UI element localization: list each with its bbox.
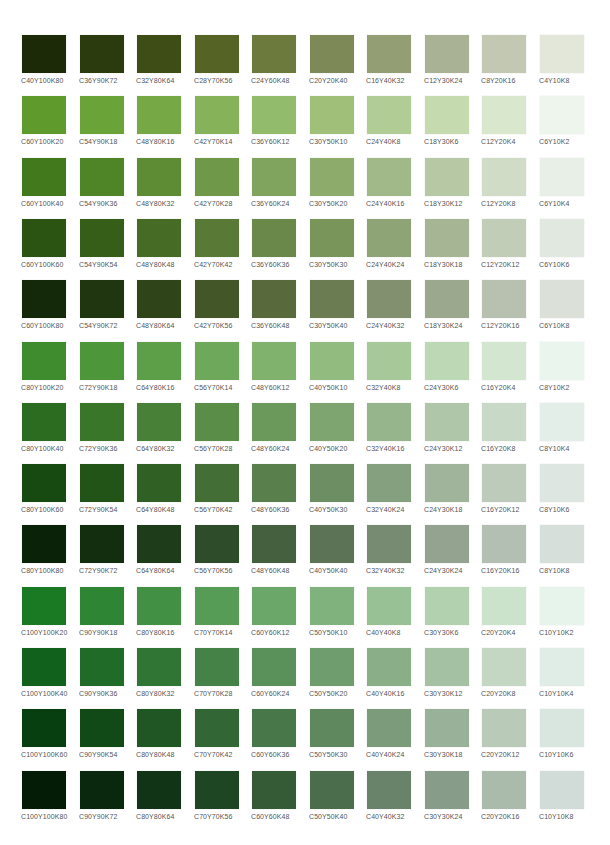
- swatch-label: C54Y90K18: [79, 137, 118, 146]
- swatch-label: C60Y100K40: [21, 199, 63, 208]
- swatch-label: C72Y90K18: [79, 383, 118, 392]
- color-swatch: [252, 525, 296, 563]
- color-swatch: [80, 771, 124, 809]
- color-swatch: [482, 280, 526, 318]
- color-swatch: [310, 464, 354, 502]
- color-swatch: [22, 280, 66, 318]
- swatch-cell: C40Y40K8: [367, 587, 424, 645]
- swatch-cell: C30Y30K18: [425, 709, 482, 767]
- swatch-cell: C30Y30K12: [425, 648, 482, 706]
- swatch-cell: C8Y20K16: [482, 35, 539, 93]
- swatch-cell: C6Y10K2: [540, 96, 597, 154]
- color-swatch: [22, 771, 66, 809]
- swatch-cell: C48Y60K12: [252, 342, 309, 400]
- color-swatch: [367, 648, 411, 686]
- swatch-label: C40Y50K30: [309, 505, 348, 514]
- swatch-row: C60Y100K20C54Y90K18C48Y80K16C42Y70K14C36…: [22, 96, 602, 157]
- color-swatch: [310, 587, 354, 625]
- color-swatch: [195, 648, 239, 686]
- color-swatch: [540, 525, 584, 563]
- swatch-cell: C10Y10K6: [540, 709, 597, 767]
- color-swatch: [252, 648, 296, 686]
- swatch-cell: C36Y90K72: [80, 35, 137, 93]
- swatch-cell: C40Y100K80: [22, 35, 79, 93]
- color-swatch: [80, 96, 124, 134]
- swatch-cell: C72Y90K36: [80, 403, 137, 461]
- swatch-cell: C60Y100K80: [22, 280, 79, 338]
- swatch-label: C10Y10K6: [539, 750, 574, 759]
- swatch-label: C72Y90K72: [79, 566, 118, 575]
- swatch-label: C20Y20K40: [309, 76, 348, 85]
- swatch-cell: C16Y40K32: [367, 35, 424, 93]
- swatch-label: C24Y30K12: [424, 444, 463, 453]
- swatch-label: C6Y10K4: [539, 199, 570, 208]
- color-swatch: [137, 709, 181, 747]
- color-swatch: [252, 96, 296, 134]
- swatch-cell: C56Y70K42: [195, 464, 252, 522]
- color-swatch: [540, 96, 584, 134]
- color-swatch: [195, 158, 239, 196]
- color-swatch: [310, 96, 354, 134]
- swatch-label: C32Y40K16: [366, 444, 405, 453]
- swatch-row: C80Y100K80C72Y90K72C64Y80K64C56Y70K56C48…: [22, 525, 602, 586]
- swatch-label: C10Y10K8: [539, 812, 574, 821]
- color-swatch: [482, 158, 526, 196]
- swatch-cell: C60Y60K36: [252, 709, 309, 767]
- swatch-cell: C16Y20K4: [482, 342, 539, 400]
- swatch-label: C24Y30K18: [424, 505, 463, 514]
- swatch-cell: C80Y80K48: [137, 709, 194, 767]
- swatch-cell: C24Y40K24: [367, 219, 424, 277]
- swatch-label: C40Y40K16: [366, 689, 405, 698]
- color-swatch: [425, 219, 469, 257]
- swatch-cell: C8Y10K2: [540, 342, 597, 400]
- swatch-cell: C32Y40K32: [367, 525, 424, 583]
- swatch-label: C80Y80K64: [136, 812, 175, 821]
- swatch-label: C18Y30K6: [424, 137, 459, 146]
- color-swatch: [425, 648, 469, 686]
- swatch-cell: C18Y30K24: [425, 280, 482, 338]
- swatch-cell: C100Y100K60: [22, 709, 79, 767]
- swatch-label: C8Y10K4: [539, 444, 570, 453]
- swatch-label: C40Y40K32: [366, 812, 405, 821]
- swatch-label: C32Y40K32: [366, 566, 405, 575]
- color-swatch: [22, 464, 66, 502]
- color-swatch: [22, 648, 66, 686]
- swatch-label: C40Y50K10: [309, 383, 348, 392]
- color-swatch: [252, 158, 296, 196]
- color-swatch: [80, 709, 124, 747]
- swatch-label: C30Y30K6: [424, 628, 459, 637]
- color-swatch: [540, 771, 584, 809]
- color-swatch: [310, 525, 354, 563]
- color-swatch: [425, 403, 469, 441]
- swatch-label: C80Y80K48: [136, 750, 175, 759]
- color-swatch: [310, 771, 354, 809]
- swatch-cell: C80Y100K80: [22, 525, 79, 583]
- swatch-label: C20Y20K8: [481, 689, 516, 698]
- swatch-cell: C54Y90K36: [80, 158, 137, 216]
- swatch-label: C32Y80K64: [136, 76, 175, 85]
- color-swatch: [80, 280, 124, 318]
- swatch-label: C60Y60K48: [251, 812, 290, 821]
- swatch-cell: C100Y100K40: [22, 648, 79, 706]
- swatch-cell: C20Y20K16: [482, 771, 539, 829]
- swatch-cell: C72Y90K18: [80, 342, 137, 400]
- color-swatch: [367, 403, 411, 441]
- swatch-cell: C90Y90K54: [80, 709, 137, 767]
- swatch-cell: C30Y30K6: [425, 587, 482, 645]
- color-swatch: [137, 648, 181, 686]
- swatch-cell: C40Y50K40: [310, 525, 367, 583]
- swatch-label: C54Y90K54: [79, 260, 118, 269]
- color-swatch: [137, 525, 181, 563]
- color-swatch: [540, 158, 584, 196]
- color-swatch: [482, 648, 526, 686]
- swatch-cell: C48Y60K48: [252, 525, 309, 583]
- swatch-label: C6Y10K8: [539, 321, 570, 330]
- color-swatch: [22, 96, 66, 134]
- color-swatch: [22, 35, 66, 73]
- swatch-row: C80Y100K60C72Y90K54C64Y80K48C56Y70K42C48…: [22, 464, 602, 525]
- swatch-cell: C48Y80K48: [137, 219, 194, 277]
- color-swatch: [137, 158, 181, 196]
- color-swatch: [540, 403, 584, 441]
- swatch-cell: C48Y60K24: [252, 403, 309, 461]
- color-swatch: [425, 35, 469, 73]
